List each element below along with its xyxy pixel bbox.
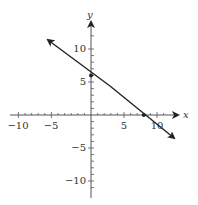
y-tick-label-neg5: −5 (71, 142, 86, 153)
plotted-line (110, 86, 174, 138)
x-axis-label: x (183, 109, 189, 120)
y-axis-label: y (86, 9, 93, 20)
x-tick-label-neg5: −5 (44, 120, 59, 131)
y-tick-label-5: 5 (80, 76, 86, 87)
x-intercept-point (142, 113, 146, 117)
y-tick-label-neg10: −10 (65, 175, 86, 186)
coordinate-plane: −10 −5 5 10 10 5 −5 −10 x y (0, 0, 198, 205)
x-tick-label-5: 5 (121, 120, 127, 131)
y-intercept-point (89, 73, 93, 77)
x-tick-label-10: 10 (151, 120, 164, 131)
y-tick-label-10: 10 (73, 43, 86, 54)
x-tick-label-neg10: −10 (7, 120, 28, 131)
